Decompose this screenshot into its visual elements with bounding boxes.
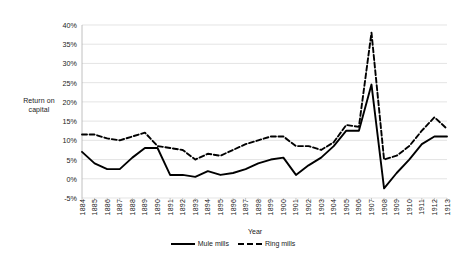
- x-axis-tick-label: 1897: [242, 199, 249, 215]
- x-axis-tick-label: 1893: [192, 199, 199, 215]
- return-on-capital-chart: Return on capital 40%35%30%25%20%15%10%5…: [0, 0, 466, 260]
- x-axis-tick-label: 1898: [255, 199, 262, 215]
- x-axis-tick-label: 1887: [116, 199, 123, 215]
- x-axis-tick-label: 1913: [444, 199, 451, 215]
- x-axis-tick-label: 1889: [141, 199, 148, 215]
- x-axis-tick-label: 1910: [406, 199, 413, 215]
- legend-label-ring-mills: Ring mills: [265, 240, 295, 247]
- x-axis-tick-labels: 1884188518861887188818891890189118921893…: [0, 199, 466, 229]
- x-axis-tick-label: 1895: [217, 199, 224, 215]
- legend-swatch-solid-icon: [171, 243, 195, 245]
- x-axis-tick-label: 1908: [381, 199, 388, 215]
- x-axis-tick-label: 1891: [167, 199, 174, 215]
- x-axis-tick-label: 1900: [280, 199, 287, 215]
- x-axis-tick-label: 1907: [368, 199, 375, 215]
- x-axis-tick-label: 1886: [104, 199, 111, 215]
- x-axis-tick-label: 1912: [431, 199, 438, 215]
- x-axis-tick-label: 1903: [318, 199, 325, 215]
- x-axis-tick-label: 1902: [305, 199, 312, 215]
- x-axis-tick-label: 1901: [292, 199, 299, 215]
- x-axis-tick-label: 1896: [230, 199, 237, 215]
- x-axis-title: Year: [248, 228, 262, 235]
- x-axis-tick-label: 1899: [267, 199, 274, 215]
- chart-legend: Mule mills Ring mills: [0, 240, 466, 247]
- legend-swatch-dashed-icon: [238, 243, 262, 245]
- x-axis-tick-label: 1888: [129, 199, 136, 215]
- legend-item-mule-mills: Mule mills: [171, 240, 229, 247]
- x-axis-tick-label: 1911: [418, 199, 425, 215]
- legend-label-mule-mills: Mule mills: [198, 240, 229, 247]
- x-axis-tick-label: 1905: [343, 199, 350, 215]
- x-axis-tick-label: 1890: [154, 199, 161, 215]
- x-axis-tick-label: 1909: [393, 199, 400, 215]
- x-axis-tick-label: 1892: [179, 199, 186, 215]
- x-axis-tick-label: 1904: [330, 199, 337, 215]
- x-axis-tick-label: 1885: [91, 199, 98, 215]
- legend-item-ring-mills: Ring mills: [238, 240, 295, 247]
- x-axis-tick-label: 1906: [355, 199, 362, 215]
- x-axis-tick-label: 1894: [204, 199, 211, 215]
- x-axis-tick-label: 1884: [79, 199, 86, 215]
- series-line-mule-mills: [82, 85, 447, 189]
